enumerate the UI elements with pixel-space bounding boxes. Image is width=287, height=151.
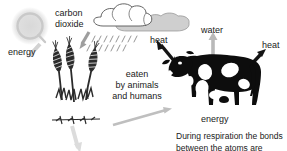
arrow-gray-down-left-co2 (80, 32, 90, 49)
arrow-gray-down-plant (72, 126, 82, 151)
label-heat-right: heat (262, 40, 280, 50)
cow-icon (162, 51, 261, 105)
label-carbon-dioxide-line1: carbon (55, 8, 83, 18)
label-heat-cloud: heat (150, 35, 168, 45)
label-eaten-line3: and humans (107, 91, 167, 101)
label-carbon-dioxide-line2: dioxide (55, 19, 84, 29)
caption-line2: between the atoms are broken (176, 143, 287, 151)
cloud-icon (94, 4, 189, 31)
caption-line1: During respiration the bonds (176, 131, 283, 142)
arrow-gray-right-eaten (113, 107, 172, 125)
label-eaten-line1: eaten (107, 69, 167, 79)
diagram-canvas: energy carbon dioxide heat water heat ea… (0, 0, 287, 151)
sun-icon (11, 7, 49, 45)
label-energy-cow: energy (201, 114, 229, 124)
wheat-plant-icon (50, 36, 101, 124)
arrow-gray-up-water (209, 32, 218, 58)
label-energy-sun: energy (8, 47, 36, 57)
label-eaten-line2: by animals (107, 80, 167, 90)
label-water: water (201, 25, 223, 35)
